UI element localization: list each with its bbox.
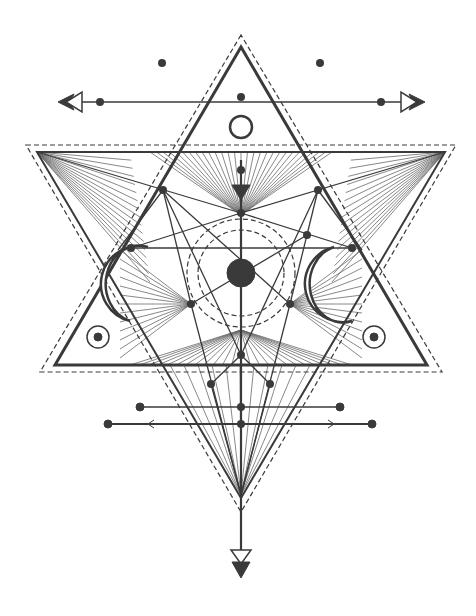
node-dot [377, 98, 385, 106]
node-dot [237, 420, 245, 428]
web-line [241, 384, 270, 495]
node-dot [187, 300, 195, 308]
node-dot [127, 244, 135, 252]
ray [241, 330, 343, 365]
node-dot [237, 403, 245, 411]
web-line [241, 355, 270, 384]
node-dot [316, 59, 324, 67]
web-line [318, 190, 362, 250]
ray [37, 152, 143, 233]
ray [167, 330, 241, 365]
node-dot [237, 351, 245, 359]
node-dot [237, 93, 245, 101]
ray [120, 286, 191, 304]
web-line [163, 190, 290, 304]
ray [290, 286, 362, 304]
node-dot [237, 166, 245, 174]
sacred-geometry-emblem [0, 0, 476, 616]
node-dot [266, 380, 274, 388]
ray [290, 259, 362, 304]
geometry-shapes [26, 35, 456, 578]
ray [342, 152, 445, 217]
ray [241, 152, 300, 215]
bar-end-dot [104, 420, 112, 428]
bar-end-dot [368, 420, 376, 428]
node-dot [159, 186, 167, 194]
ray [241, 152, 332, 215]
ray [183, 152, 242, 215]
ray [150, 152, 241, 215]
bar-end-dot [136, 403, 144, 411]
web-line [211, 384, 241, 495]
ray [120, 268, 191, 304]
node-dot [96, 98, 104, 106]
bottom-arrow-head [232, 562, 250, 578]
web-line [163, 190, 191, 304]
node-dot [158, 59, 166, 67]
eye-dot [94, 333, 102, 341]
node-dot [348, 244, 356, 252]
node-dot [237, 209, 245, 217]
core-circle [227, 259, 255, 287]
ray [340, 152, 446, 233]
bar-end-dot [336, 403, 344, 411]
ray [139, 330, 241, 365]
ray [120, 304, 191, 322]
top-ring [230, 116, 252, 138]
node-dot [286, 300, 294, 308]
web-line [211, 355, 241, 384]
ray [241, 330, 315, 365]
web-line [241, 213, 352, 248]
ray [337, 152, 445, 250]
ray [37, 152, 140, 217]
node-dot [303, 231, 311, 239]
node-dot [207, 380, 215, 388]
ray [332, 152, 445, 282]
ray [170, 365, 241, 495]
down-triangle-marker [232, 185, 250, 200]
eye-dot [370, 333, 378, 341]
web-line [131, 213, 241, 248]
ray [120, 259, 191, 304]
ray [212, 365, 241, 495]
node-dot [314, 186, 322, 194]
ray [290, 268, 362, 304]
